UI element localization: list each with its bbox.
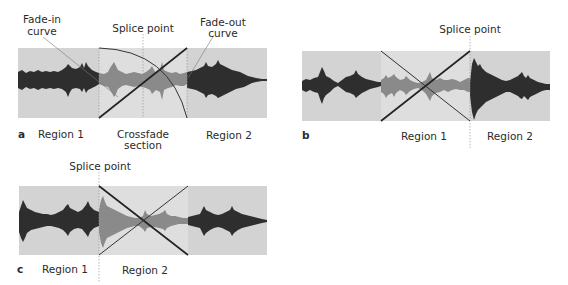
splice-point-label: Splice point bbox=[112, 22, 174, 34]
panel-letter-a: a bbox=[18, 128, 25, 140]
panel-letter-b: b bbox=[302, 129, 310, 141]
panel-a: Fade-in curve Splice point Fade-out curv… bbox=[18, 13, 267, 151]
fade-in-label-line2: curve bbox=[27, 25, 56, 37]
splice-point-label: Splice point bbox=[69, 160, 131, 172]
region2-label: Region 2 bbox=[206, 129, 252, 141]
fade-out-label-line2: curve bbox=[208, 27, 237, 39]
region2-label: Region 2 bbox=[487, 130, 533, 142]
fade-in-label-line1: Fade-in bbox=[23, 13, 61, 25]
splice-point-label: Splice point bbox=[439, 23, 501, 35]
crossfade-label-line2: section bbox=[124, 139, 162, 151]
panel-b: Splice point b Region 1 Region 2 bbox=[302, 23, 550, 148]
panel-letter-c: c bbox=[17, 263, 23, 275]
region1-label: Region 1 bbox=[42, 263, 88, 275]
region1-label: Region 1 bbox=[401, 130, 447, 142]
panel-c: Splice point c Region 1 Region 2 bbox=[17, 160, 267, 282]
crossfade-diagram: Fade-in curve Splice point Fade-out curv… bbox=[0, 0, 568, 285]
region1-label: Region 1 bbox=[38, 128, 84, 140]
region2-label: Region 2 bbox=[122, 264, 168, 276]
